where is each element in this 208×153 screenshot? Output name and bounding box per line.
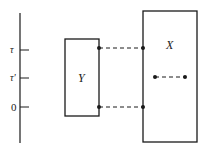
tick-label-tau: τ bbox=[10, 44, 14, 55]
diagram-canvas: τ τ' 0 Y X bbox=[0, 0, 208, 153]
tick-label-zero: 0 bbox=[11, 101, 17, 113]
dot-y-bottom bbox=[97, 105, 101, 109]
dot-x-top bbox=[141, 46, 145, 50]
dot-x-bottom bbox=[141, 105, 145, 109]
box-y-label: Y bbox=[78, 71, 86, 85]
tick-label-tau-prime: τ' bbox=[10, 72, 17, 83]
inner-dot-right bbox=[183, 75, 187, 79]
box-x-label: X bbox=[165, 38, 174, 52]
dot-y-top bbox=[97, 46, 101, 50]
inner-dot-left bbox=[153, 75, 157, 79]
